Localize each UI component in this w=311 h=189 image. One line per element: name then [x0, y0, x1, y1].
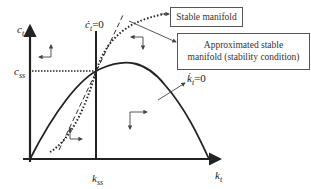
approximated-manifold-callout: Approximated stable manifold (stability … — [177, 33, 310, 70]
y-axis-label: ct — [17, 24, 24, 38]
k-dot-zero-callout-line — [158, 83, 185, 100]
approx-callout-line — [129, 21, 176, 42]
x-axis-label: kt — [215, 170, 222, 184]
direction-arrows-upper-right — [131, 37, 143, 49]
c-dot-zero-label: ċt=0 — [85, 19, 104, 33]
stable-manifold-callout: Stable manifold — [170, 7, 243, 27]
k-ss-label: kss — [92, 173, 103, 187]
approximated-stable-manifold — [59, 13, 124, 150]
k-dot-zero-locus — [30, 63, 209, 159]
direction-arrows-lower-right — [130, 112, 147, 129]
direction-arrows-lower-left — [70, 128, 82, 139]
c-ss-label: css — [14, 66, 25, 80]
direction-arrows-upper-left — [39, 45, 51, 57]
k-dot-zero-label: k̇t=0 — [187, 73, 206, 87]
approx-callout-line2: manifold (stability condition) — [178, 51, 309, 63]
stable-manifold — [50, 14, 165, 152]
phase-diagram — [0, 0, 311, 189]
approx-callout-line1: Approximated stable — [178, 39, 309, 51]
